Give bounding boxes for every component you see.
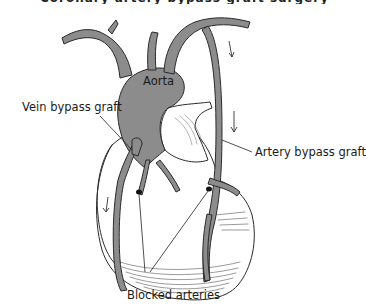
- artery-graft-label: Artery bypass graft: [255, 147, 366, 159]
- blocked-arteries-label: Blocked arteries: [127, 290, 220, 302]
- leader-artery-graft: [222, 140, 252, 152]
- blockage-left: [136, 190, 142, 195]
- carotid-artery: [148, 32, 158, 70]
- aorta-label: Aorta: [143, 76, 174, 88]
- branch-small: [108, 20, 118, 34]
- vein-graft-label: Vein bypass graft: [22, 102, 122, 114]
- blockage-right: [206, 187, 212, 192]
- brachiocephalic-artery: [62, 30, 132, 78]
- pulmonary-trunk: [161, 102, 212, 162]
